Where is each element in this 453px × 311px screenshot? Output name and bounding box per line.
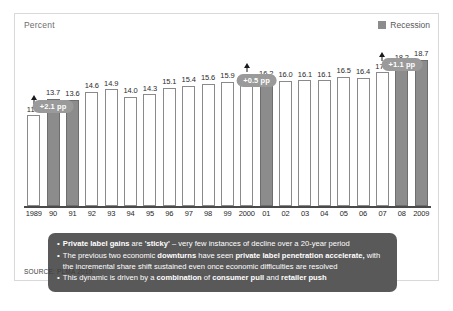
- x-axis-tick-label: 04: [315, 209, 334, 218]
- bar[interactable]: [279, 81, 292, 206]
- bar-slot: 14.9: [102, 48, 121, 206]
- up-arrow-icon: [379, 52, 385, 57]
- bar-recession[interactable]: [47, 99, 60, 206]
- bar-slot: 18.7: [412, 48, 431, 206]
- bar-value-label: 16.1: [298, 70, 312, 79]
- bar-value-label: 15.9: [220, 71, 234, 80]
- axis-baseline: [24, 206, 431, 208]
- bar[interactable]: [337, 77, 350, 206]
- bar-recession[interactable]: [395, 64, 408, 206]
- bar-recession[interactable]: [66, 100, 79, 206]
- insight-callout-box: •Private label gains are 'sticky' – very…: [48, 233, 397, 292]
- bar-slot: 18.2: [392, 48, 411, 206]
- bar-value-label: 14.0: [123, 86, 137, 95]
- x-axis-tick-label: 08: [392, 209, 411, 218]
- bar-value-label: 15.4: [182, 75, 196, 84]
- bar-value-label: 16.4: [356, 67, 370, 76]
- bar[interactable]: [105, 89, 118, 206]
- bar[interactable]: [182, 86, 195, 206]
- bar-slot: 15.6: [198, 48, 217, 206]
- chart-legend: Recession: [378, 20, 430, 30]
- callout-bullet-text: Private label gains are 'sticky' – very …: [63, 239, 387, 250]
- pp-change-badge: +2.1 pp: [33, 100, 74, 113]
- callout-bullet: •This dynamic is driven by a combination…: [57, 273, 387, 284]
- bar-value-label: 15.1: [162, 77, 176, 86]
- bar-slot: 14.0: [121, 48, 140, 206]
- bar-slot: 11.6: [24, 48, 43, 206]
- up-arrow-icon: [244, 63, 250, 68]
- source-note: SOURCE: PLMA 2010: [24, 268, 92, 275]
- bar-recession[interactable]: [415, 60, 428, 206]
- bar[interactable]: [85, 92, 98, 206]
- pp-change-badge: +1.1 pp: [382, 58, 423, 71]
- pp-change-badge: +0.5 pp: [236, 74, 277, 87]
- bar[interactable]: [27, 115, 40, 206]
- x-axis-tick-label: 01: [257, 209, 276, 218]
- bar-slot: 16.2: [257, 48, 276, 206]
- callout-bullet-text: This dynamic is driven by a combination …: [63, 273, 387, 284]
- x-axis-tick-label: 99: [218, 209, 237, 218]
- bar-slot: 14.6: [82, 48, 101, 206]
- x-axis-tick-label: 1989: [24, 209, 43, 218]
- x-axis-tick-label: 2009: [412, 209, 431, 218]
- callout-bullet-text: The previous two economic downturns have…: [63, 251, 387, 273]
- bar[interactable]: [143, 94, 156, 206]
- screenshot-page: Percent Recession 11.613.713.614.614.914…: [0, 0, 453, 311]
- bar-value-label: 14.6: [85, 81, 99, 90]
- bar-value-label: 18.7: [414, 49, 428, 58]
- bar[interactable]: [221, 82, 234, 206]
- bar-slot: 13.6: [63, 48, 82, 206]
- x-axis-tick-label: 92: [82, 209, 101, 218]
- bar-value-label: 15.6: [201, 73, 215, 82]
- x-axis-tick-label: 94: [121, 209, 140, 218]
- bar-value-label: 13.7: [46, 88, 60, 97]
- bar[interactable]: [318, 80, 331, 206]
- bar[interactable]: [298, 80, 311, 206]
- x-axis-tick-label: 97: [179, 209, 198, 218]
- x-axis-tick-label: 96: [160, 209, 179, 218]
- recession-legend-swatch: [378, 21, 386, 29]
- x-axis-tick-label: 95: [140, 209, 159, 218]
- bar-slot: 17.1: [373, 48, 392, 206]
- callout-bullet: •The previous two economic downturns hav…: [57, 251, 387, 273]
- x-axis-tick-label: 90: [43, 209, 62, 218]
- bar-slot: 14.3: [140, 48, 159, 206]
- bar-slot: 16.0: [276, 48, 295, 206]
- bar-value-label: 13.6: [65, 89, 79, 98]
- bar[interactable]: [357, 78, 370, 206]
- bar-slot: 15.9: [218, 48, 237, 206]
- bar[interactable]: [163, 88, 176, 206]
- bar-slot: 16.1: [315, 48, 334, 206]
- bar-value-label: 14.9: [104, 79, 118, 88]
- x-axis-ticks: 1989909192939495969798992000010203040506…: [24, 209, 431, 218]
- bar-slot: 16.4: [353, 48, 372, 206]
- bar-recession[interactable]: [260, 79, 273, 206]
- bar-value-label: 16.1: [317, 70, 331, 79]
- bar[interactable]: [240, 83, 253, 206]
- bar-slot: 16.1: [295, 48, 314, 206]
- y-axis-title: Percent: [24, 20, 55, 30]
- x-axis-tick-label: 07: [373, 209, 392, 218]
- bar-slot: 16.5: [334, 48, 353, 206]
- bar-series: 11.613.713.614.614.914.014.315.115.415.6…: [24, 48, 431, 206]
- bar-value-label: 16.5: [337, 66, 351, 75]
- x-axis-tick-label: 03: [295, 209, 314, 218]
- chart-frame: Percent Recession 11.613.713.614.614.914…: [14, 13, 439, 281]
- bar[interactable]: [202, 84, 215, 206]
- x-axis-tick-label: 93: [102, 209, 121, 218]
- bar-slot: 15.1: [160, 48, 179, 206]
- bar-value-label: 16.0: [278, 70, 292, 79]
- bullet-dot-icon: •: [57, 239, 60, 250]
- bar-value-label: 14.3: [143, 84, 157, 93]
- callout-bullet: •Private label gains are 'sticky' – very…: [57, 239, 387, 250]
- x-axis-tick-label: 02: [276, 209, 295, 218]
- x-axis-tick-label: 91: [63, 209, 82, 218]
- plot-area: 11.613.713.614.614.914.014.315.115.415.6…: [24, 48, 431, 206]
- x-axis-tick-label: 2000: [237, 209, 256, 218]
- x-axis-tick-label: 98: [198, 209, 217, 218]
- bar-slot: 15.7: [237, 48, 256, 206]
- x-axis-tick-label: 06: [353, 209, 372, 218]
- bar[interactable]: [376, 72, 389, 206]
- recession-legend-label: Recession: [390, 20, 430, 30]
- bar[interactable]: [124, 97, 137, 207]
